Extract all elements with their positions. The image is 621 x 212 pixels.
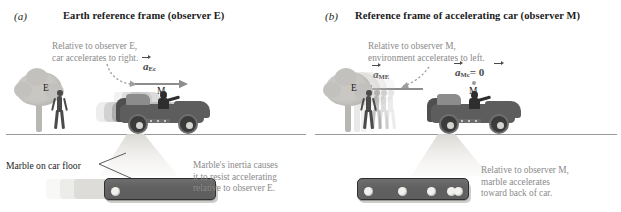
panel-b-top-note: Relative to observer M, environment acce… bbox=[368, 41, 485, 64]
panel-b-marble-1 bbox=[364, 187, 373, 196]
vector-symbol: a bbox=[143, 60, 149, 72]
panel-a-marble bbox=[111, 187, 120, 196]
panel-b-title: Reference frame of accelerating car (obs… bbox=[355, 10, 580, 21]
panel-b-zero-accel-vector-label: aMc= 0 bbox=[455, 66, 484, 78]
panel-a-title: Earth reference frame (observer E) bbox=[63, 10, 224, 21]
panel-b-car-marker-dot bbox=[472, 81, 476, 85]
panel-a-top-note: Relative to observer E, car accelerates … bbox=[52, 41, 138, 64]
panel-b-observer-label: E bbox=[351, 83, 357, 93]
panel-a-observer-label: E bbox=[43, 83, 49, 93]
vector-subscript: Ec bbox=[149, 65, 156, 72]
panel-b-bottom-note: Relative to observer M, marble accelerat… bbox=[481, 165, 569, 200]
figure-canvas: (a) Earth reference frame (observer E) R… bbox=[0, 0, 621, 212]
panel-b-marble-2 bbox=[398, 187, 407, 196]
panel-b-rear-wheel bbox=[439, 114, 459, 134]
panel-a-front-wheel bbox=[178, 114, 198, 134]
vector-subscript: Mc bbox=[461, 71, 470, 78]
panel-b: (b) Reference frame of accelerating car … bbox=[311, 0, 621, 212]
panel-a-bottom-note: Marble's inertia causes it to resist acc… bbox=[193, 160, 278, 195]
panel-b-letter: (b) bbox=[325, 10, 338, 22]
panel-a: (a) Earth reference frame (observer E) R… bbox=[0, 0, 310, 212]
vector-symbol: a bbox=[455, 66, 461, 78]
panel-a-rear-wheel bbox=[128, 114, 148, 134]
zero-vector-arrowhead bbox=[501, 61, 504, 65]
vector-equals-zero: = 0 bbox=[470, 66, 485, 78]
panel-b-marble-5 bbox=[454, 187, 463, 196]
panel-a-accel-vector-label: aEc bbox=[143, 60, 156, 72]
panel-a-letter: (a) bbox=[14, 10, 27, 22]
panel-b-marble-3 bbox=[427, 187, 436, 196]
panel-a-callout-label: Marble on car floor bbox=[6, 160, 81, 172]
panel-b-front-wheel bbox=[489, 114, 509, 134]
